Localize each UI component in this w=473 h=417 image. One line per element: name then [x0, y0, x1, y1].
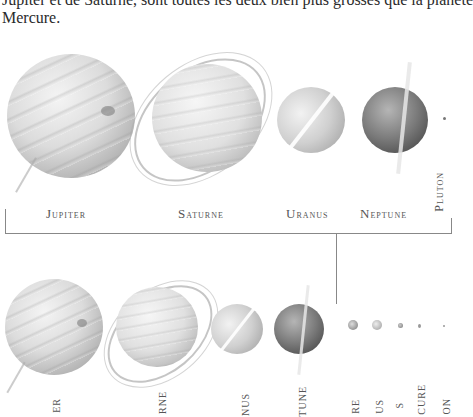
- label-saturne-bottom: RNE: [157, 391, 168, 414]
- label-jupiter-bottom: ER: [51, 398, 62, 413]
- connector-vertical: [336, 234, 337, 304]
- caption-line-2: Mercure.: [2, 9, 462, 27]
- label-pluton: Pluton: [432, 172, 447, 212]
- bracket-right-vertical: [451, 218, 452, 234]
- jupiter-axis: [15, 157, 37, 193]
- planet-saturne-large: [152, 64, 262, 172]
- great-red-spot: [101, 106, 115, 116]
- label-terre-bottom: RE: [350, 399, 361, 414]
- label-neptune: Neptune: [360, 206, 407, 222]
- bracket-left-vertical: [5, 209, 6, 234]
- planet-neptune-small: [274, 304, 324, 354]
- label-venus-bottom: US: [374, 399, 385, 414]
- planet-jupiter-large: [7, 54, 135, 178]
- label-saturne: Saturne: [178, 206, 224, 222]
- planet-neptune-large: [362, 87, 428, 153]
- caption-line-1: Jupiter et de Saturne, sont toutes les d…: [2, 0, 462, 9]
- planet-saturne-small: [116, 287, 198, 367]
- planet-mercure-small: [418, 324, 421, 328]
- planet-terre-small: [348, 320, 358, 330]
- bracket-bottom-horizontal: [5, 233, 452, 234]
- label-mercure-bottom: CURE: [416, 384, 427, 415]
- label-jupiter: Jupiter: [46, 206, 86, 222]
- planet-mars-small: [398, 323, 403, 328]
- planet-pluton-large: [443, 117, 446, 120]
- label-pluton-bottom: ON: [441, 398, 452, 414]
- label-neptune-bottom: TUNE: [297, 386, 308, 417]
- planet-pluton-small: [443, 325, 445, 327]
- great-red-spot-small: [77, 319, 87, 327]
- label-uranus: Uranus: [286, 206, 329, 222]
- label-mars-bottom: S: [394, 402, 405, 409]
- caption-text: Jupiter et de Saturne, sont toutes les d…: [2, 0, 462, 27]
- planet-jupiter-small: [5, 279, 103, 375]
- label-uranus-bottom: NUS: [240, 393, 251, 416]
- jupiter-axis-small: [6, 362, 25, 393]
- planet-venus-small: [372, 320, 382, 330]
